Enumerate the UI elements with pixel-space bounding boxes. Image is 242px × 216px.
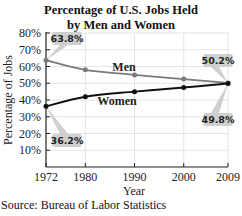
series-label-men: Men — [112, 60, 136, 74]
annotation-women-1972-pointer — [46, 106, 68, 134]
annotation-men-2009-pointer — [211, 67, 228, 83]
series-label-women: Women — [97, 94, 137, 108]
y-tick-label: 80% — [19, 26, 41, 40]
data-point-women — [44, 104, 49, 109]
annotation-women-1972-text: 36.2% — [51, 135, 84, 146]
annotation-men-1972-text: 63.8% — [51, 33, 84, 44]
data-point-men — [83, 67, 88, 72]
annotation-men-2009-text: 50.2% — [202, 55, 235, 66]
series-line-women — [46, 84, 228, 107]
x-axis-label: Year — [123, 184, 145, 198]
annotation-women-2009-pointer — [211, 84, 228, 113]
data-point-women — [83, 94, 88, 99]
line-chart: 10%20%30%40%50%60%70%80%1972198019902000… — [0, 0, 242, 216]
data-point-women — [181, 85, 186, 90]
y-tick-label: 10% — [19, 143, 41, 157]
data-point-women — [226, 81, 231, 86]
y-tick-label: 20% — [19, 127, 41, 141]
y-tick-label: 50% — [19, 76, 41, 90]
annotation-men-1972-pointer — [46, 45, 68, 60]
x-tick-label: 2009 — [216, 170, 240, 184]
x-tick-label: 2000 — [172, 170, 196, 184]
y-tick-label: 60% — [19, 60, 41, 74]
x-tick-label: 1990 — [123, 170, 147, 184]
y-tick-label: 40% — [19, 93, 41, 107]
x-tick-label: 1972 — [34, 170, 58, 184]
y-tick-label: 30% — [19, 110, 41, 124]
y-tick-label: 70% — [19, 43, 41, 57]
source-note: Source: Bureau of Labor Statistics — [1, 198, 166, 213]
annotation-women-2009-text: 49.8% — [202, 114, 235, 125]
data-point-men — [44, 58, 49, 63]
y-axis-label: Percentage of Jobs — [1, 55, 15, 145]
data-point-men — [181, 77, 186, 82]
x-tick-label: 1980 — [73, 170, 97, 184]
